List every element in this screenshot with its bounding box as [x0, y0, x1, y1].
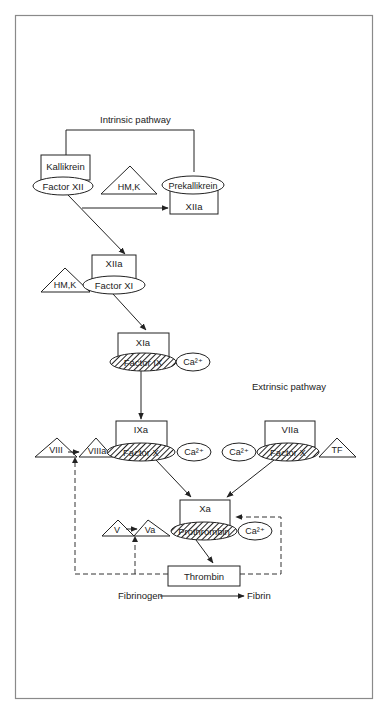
feedback-arrowhead-viiia: [72, 457, 78, 463]
svg-text:Prekallikrein: Prekallikrein: [168, 181, 217, 191]
factor-ix-node: Factor IX: [110, 353, 176, 371]
arrow-xii-to-xiia-2: [68, 195, 125, 254]
svg-text:V: V: [114, 525, 120, 535]
svg-text:Ca²⁺: Ca²⁺: [183, 357, 203, 367]
va-triangle: Va: [134, 520, 170, 536]
calcium-node-2: Ca²⁺: [177, 443, 211, 461]
prothrombin-node: Prothrombin: [171, 522, 237, 540]
v-triangle: V: [102, 520, 134, 536]
svg-text:HM,K: HM,K: [54, 280, 77, 290]
svg-text:IXa: IXa: [134, 424, 149, 435]
svg-text:XIa: XIa: [136, 337, 151, 348]
arrow-x-extrinsic-to-xa: [227, 460, 274, 497]
coagulation-cascade-diagram: Intrinsic pathway Kallikrein Factor XII …: [0, 0, 378, 704]
intrinsic-pathway-title: Intrinsic pathway: [100, 114, 171, 125]
arrow-x-intrinsic-to-xa: [156, 460, 191, 497]
viii-triangle: VIII: [35, 438, 77, 457]
fibrinogen-label: Fibrinogen: [118, 590, 163, 601]
svg-text:VIII: VIII: [49, 445, 63, 455]
svg-text:Factor X: Factor X: [270, 447, 307, 458]
factor-xi-node: Factor XI: [83, 276, 145, 294]
svg-text:Factor IX: Factor IX: [124, 357, 163, 368]
svg-text:Xa: Xa: [199, 503, 211, 514]
prekallikrein-node: Prekallikrein: [162, 176, 224, 194]
svg-text:VIIa: VIIa: [282, 424, 300, 435]
svg-text:Ca²⁺: Ca²⁺: [245, 526, 265, 536]
extrinsic-pathway-title: Extrinsic pathway: [252, 381, 326, 392]
calcium-node-1: Ca²⁺: [176, 353, 210, 371]
svg-text:Prothrombin: Prothrombin: [178, 526, 230, 537]
arrow-xi-to-xia: [113, 294, 146, 330]
svg-text:XIIa: XIIa: [106, 258, 124, 269]
calcium-node-3: Ca²⁺: [222, 443, 256, 461]
svg-text:Kallikrein: Kallikrein: [46, 161, 85, 172]
factor-x-extrinsic-node: Factor X: [257, 443, 319, 461]
tf-triangle: TF: [319, 438, 356, 457]
feedback-thrombin-to-viiia: [75, 460, 168, 574]
svg-text:Va: Va: [145, 525, 155, 535]
svg-text:VIIIa: VIIIa: [88, 446, 107, 456]
svg-text:Ca²⁺: Ca²⁺: [184, 447, 204, 457]
svg-text:HM,K: HM,K: [118, 182, 141, 192]
factor-x-intrinsic-node: Factor X: [107, 443, 175, 461]
svg-text:Factor XII: Factor XII: [42, 181, 83, 192]
kallikrein-node: Kallikrein: [41, 155, 90, 180]
calcium-node-4: Ca²⁺: [238, 522, 272, 540]
feedback-arrowhead-va: [132, 536, 138, 542]
svg-text:TF: TF: [332, 445, 343, 455]
svg-text:Factor X: Factor X: [123, 447, 160, 458]
arrow-prothrombin-to-thrombin: [196, 540, 213, 563]
svg-text:XIIa: XIIa: [186, 201, 204, 212]
svg-text:Thrombin: Thrombin: [184, 571, 224, 582]
svg-text:Ca²⁺: Ca²⁺: [229, 447, 249, 457]
svg-text:Factor XI: Factor XI: [95, 280, 134, 291]
fibrin-label: Fibrin: [247, 590, 271, 601]
hmk-triangle-1: HM,K: [101, 166, 157, 194]
factor-xii-node: Factor XII: [33, 177, 93, 195]
hmk-triangle-2: HM,K: [41, 268, 90, 292]
thrombin-node: Thrombin: [168, 566, 240, 586]
